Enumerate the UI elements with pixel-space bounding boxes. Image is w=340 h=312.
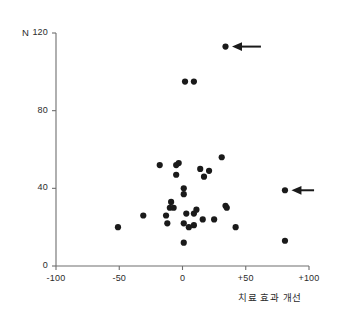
data-point: [222, 43, 228, 49]
data-point: [168, 199, 174, 205]
data-point: [233, 224, 239, 230]
data-point: [191, 222, 197, 228]
annotation-arrow: [232, 42, 261, 51]
data-point: [193, 207, 199, 213]
data-point: [282, 187, 288, 193]
data-point: [171, 205, 177, 211]
data-point: [181, 185, 187, 191]
data-point: [181, 220, 187, 226]
data-point: [282, 238, 288, 244]
scatter-plot-figure: N 치료 효과 개선 04080120-100-500+50+100: [0, 0, 340, 312]
data-point: [164, 220, 170, 226]
data-point: [200, 216, 206, 222]
data-point: [219, 154, 225, 160]
data-point: [197, 166, 203, 172]
arrow-head-icon: [291, 186, 301, 195]
data-point: [201, 174, 207, 180]
data-point: [181, 191, 187, 197]
data-point: [183, 210, 189, 216]
data-point: [206, 168, 212, 174]
x-axis-tick-label: +100: [289, 273, 329, 283]
data-point: [173, 172, 179, 178]
data-point: [163, 212, 169, 218]
y-axis-tick-label: 80: [22, 105, 48, 115]
data-point: [211, 216, 217, 222]
y-axis-tick-label: 120: [22, 27, 48, 37]
x-axis-tick-label: 0: [163, 273, 203, 283]
annotation-arrow: [291, 186, 314, 195]
plot-canvas: [0, 0, 340, 312]
y-axis-tick-label: 40: [22, 182, 48, 192]
x-axis-label: 치료 효과 개선: [238, 290, 302, 304]
data-point: [176, 160, 182, 166]
data-point: [181, 240, 187, 246]
x-axis-tick-label: -100: [36, 273, 76, 283]
x-axis-tick-label: +50: [226, 273, 266, 283]
x-axis-tick-label: -50: [99, 273, 139, 283]
data-point: [191, 78, 197, 84]
data-point: [115, 224, 121, 230]
arrow-head-icon: [232, 42, 242, 51]
data-point: [140, 212, 146, 218]
data-point: [182, 78, 188, 84]
data-point: [224, 205, 230, 211]
y-axis-tick-label: 0: [22, 260, 48, 270]
data-point: [157, 162, 163, 168]
